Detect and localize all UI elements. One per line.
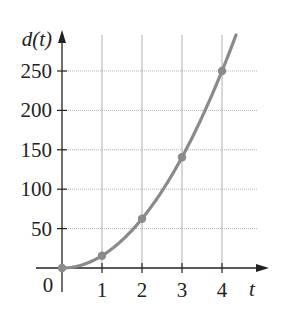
x-tick-label: 1 bbox=[97, 278, 108, 302]
y-axis-label: d(t) bbox=[22, 27, 52, 51]
origin-label: 0 bbox=[43, 273, 54, 297]
data-point bbox=[178, 153, 186, 161]
x-tick-label: 2 bbox=[137, 278, 148, 302]
y-axis-arrow-icon bbox=[58, 30, 66, 43]
data-point bbox=[138, 215, 146, 223]
grid-lines bbox=[62, 35, 258, 268]
x-tick-label: 3 bbox=[177, 278, 188, 302]
x-tick-label: 4 bbox=[217, 278, 228, 302]
y-tick-label: 150 bbox=[21, 138, 53, 162]
data-point bbox=[98, 252, 106, 260]
y-tick-label: 100 bbox=[21, 177, 53, 201]
x-axis-arrow-icon bbox=[256, 264, 269, 272]
data-point bbox=[58, 264, 66, 272]
y-tick-label: 250 bbox=[21, 59, 53, 83]
x-axis-label: t bbox=[249, 277, 256, 301]
y-tick-label: 200 bbox=[21, 98, 53, 122]
data-point bbox=[218, 67, 226, 75]
chart: 1234501001502002500td(t) bbox=[0, 0, 281, 310]
y-tick-label: 50 bbox=[31, 217, 52, 241]
curve-d-of-t bbox=[62, 35, 236, 268]
axes bbox=[36, 30, 269, 292]
